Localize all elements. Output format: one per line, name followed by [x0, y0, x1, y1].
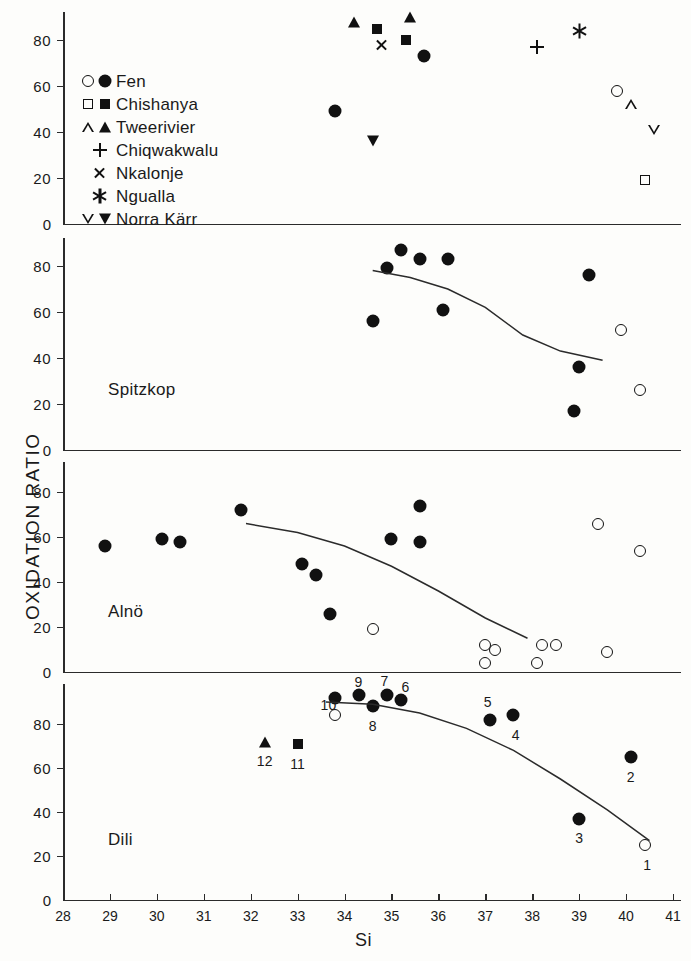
x-tick: [579, 894, 580, 900]
x-tick: [63, 894, 64, 900]
data-point-dili: [507, 709, 520, 722]
x-tick-label: 40: [608, 908, 644, 924]
panel-label-spitzkop: Spitzkop: [108, 380, 176, 400]
legend-marker-group: [68, 208, 116, 231]
legend-marker-group: [68, 116, 116, 139]
circle-open-marker: [615, 324, 627, 336]
legend-item-norra-kärr[interactable]: Norra Kärr: [68, 208, 197, 231]
legend-item-label: Fen: [116, 72, 146, 92]
legend-item-ngualla[interactable]: Ngualla: [68, 185, 175, 208]
legend-item-label: Ngualla: [116, 187, 175, 207]
x-tick-label: 41: [655, 908, 691, 924]
data-point-dili: [639, 839, 651, 851]
square-filled-marker: [100, 99, 110, 109]
data-point-legend-panel: [572, 23, 587, 38]
data-point: [82, 214, 94, 224]
y-tick: [57, 266, 63, 267]
point-number-label: 2: [627, 769, 635, 785]
y-tick-label: 20: [11, 619, 51, 636]
circle-open-marker: [531, 657, 543, 669]
legend-marker-group: [68, 162, 116, 185]
y-tick-label: 40: [11, 350, 51, 367]
circle-open-marker: [592, 518, 604, 530]
triangle-filled-marker: [259, 736, 271, 747]
data-point: [83, 99, 93, 109]
y-tick-label: 0: [11, 216, 51, 233]
data-point-spitzkop: [394, 243, 407, 256]
legend-item-label: Chishanya: [116, 95, 198, 115]
data-point-spitzkop: [441, 253, 454, 266]
circle-filled-marker: [394, 693, 407, 706]
y-tick: [57, 768, 63, 769]
legend-item-chishanya[interactable]: Chishanya: [68, 93, 198, 116]
square-filled-marker: [372, 24, 382, 34]
y-tick-label: 80: [11, 716, 51, 733]
plus-marker: [530, 40, 544, 54]
circle-open-marker: [611, 85, 623, 97]
data-point-legend-panel: [367, 136, 379, 147]
figure-canvas: 020406080020406080Spitzkop020406080Alnö0…: [0, 0, 691, 961]
x-tick-label: 29: [92, 908, 128, 924]
y-tick: [57, 132, 63, 133]
data-point-alno: [592, 518, 604, 530]
panel-x-axis: [63, 450, 681, 451]
y-tick: [57, 537, 63, 538]
circle-filled-marker: [366, 315, 379, 328]
legend-marker-group: [68, 93, 116, 116]
data-point: [93, 143, 107, 157]
panel-label-alno: Alnö: [108, 602, 143, 622]
dtriangle-open-marker: [82, 214, 94, 224]
circle-filled-marker: [324, 607, 337, 620]
data-point-alno: [235, 504, 248, 517]
dtriangle-open-marker: [648, 125, 660, 135]
circle-filled-marker: [99, 540, 112, 553]
data-point-legend-panel: [329, 105, 342, 118]
point-number-label: 5: [484, 694, 492, 710]
panel-y-axis: [63, 462, 65, 672]
data-point-alno: [367, 623, 379, 635]
data-point: [99, 75, 112, 88]
legend-marker-group: [68, 139, 116, 162]
legend-item-tweerivier[interactable]: Tweerivier: [68, 116, 195, 139]
dtriangle-filled-marker: [99, 214, 111, 225]
data-point-alno: [99, 540, 112, 553]
y-tick: [57, 312, 63, 313]
x-tick-label: 34: [327, 908, 363, 924]
circle-open-marker: [82, 75, 94, 87]
x-tick: [673, 894, 674, 900]
y-tick-label: 0: [11, 892, 51, 909]
asterisk-marker: [93, 189, 108, 204]
circle-filled-marker: [155, 533, 168, 546]
data-point-spitzkop: [568, 404, 581, 417]
x-tick: [251, 894, 252, 900]
x-tick-label: 38: [514, 908, 550, 924]
x-tick-label: 33: [280, 908, 316, 924]
x-tick: [298, 894, 299, 900]
y-tick: [57, 178, 63, 179]
plus-marker: [93, 143, 107, 157]
legend-item-label: Norra Kärr: [116, 210, 197, 230]
data-point-dili: [352, 689, 365, 702]
circle-filled-marker: [352, 689, 365, 702]
square-open-marker: [83, 99, 93, 109]
circle-open-marker: [367, 623, 379, 635]
data-point: [93, 189, 108, 204]
y-tick-label: 80: [11, 258, 51, 275]
legend-item-chiqwakwalu[interactable]: Chiqwakwalu: [68, 139, 218, 162]
circle-filled-marker: [441, 253, 454, 266]
x-tick: [626, 894, 627, 900]
point-number-label: 6: [402, 679, 410, 695]
circle-filled-marker: [413, 535, 426, 548]
square-filled-marker: [401, 35, 411, 45]
y-tick: [57, 812, 63, 813]
legend-item-nkalonje[interactable]: Nkalonje: [68, 162, 184, 185]
y-tick-label: 20: [11, 170, 51, 187]
data-point-spitzkop: [413, 253, 426, 266]
x-tick: [345, 894, 346, 900]
x-tick-label: 32: [233, 908, 269, 924]
data-point-alno: [296, 558, 309, 571]
data-point: [99, 122, 111, 133]
data-point-legend-panel: [372, 24, 382, 34]
x-tick-label: 31: [186, 908, 222, 924]
legend-item-fen[interactable]: Fen: [68, 70, 146, 93]
